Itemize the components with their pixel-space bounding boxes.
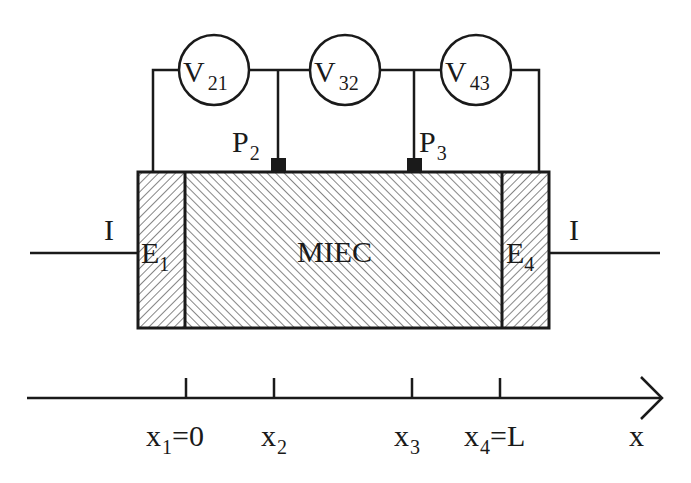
v32-main: V [314, 55, 336, 88]
v21-sub: 21 [208, 72, 228, 94]
current-label-right: I [569, 213, 579, 246]
v43-sub: 43 [470, 72, 490, 94]
position-axis [27, 377, 662, 419]
probe-p2-contact [271, 158, 286, 172]
probe-p3-contact [407, 158, 422, 172]
v43-main: V [445, 55, 467, 88]
v32-sub: 32 [339, 72, 359, 94]
tick-label-x4: x4=L [464, 419, 525, 458]
current-label-left: I [104, 213, 114, 246]
tick-label-x1: x1=0 [146, 419, 204, 458]
miec-label: MIEC [297, 235, 372, 268]
v21-main: V [183, 55, 205, 88]
probe-p2-label: P2 [232, 125, 260, 164]
voltmeter-v21: V21 [179, 35, 249, 105]
tick-label-x3: x3 [394, 419, 420, 458]
tick-label-x2: x2 [261, 419, 287, 458]
voltmeter-v32: V32 [310, 35, 380, 105]
probe-p3-label: P3 [419, 125, 447, 164]
miec-measurement-diagram: V21 V32 V43 P2 P3 I I E1 E4 MIEC x1=0 x2… [0, 0, 691, 483]
voltmeter-v43: V43 [441, 35, 511, 105]
axis-label-x: x [629, 419, 644, 452]
